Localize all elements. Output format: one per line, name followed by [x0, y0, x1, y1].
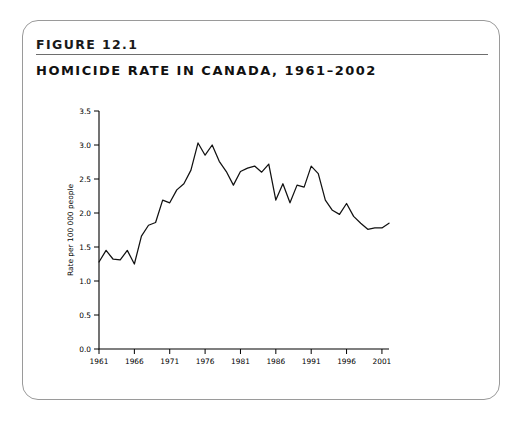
chart-plot-area: 0.00.51.01.52.02.53.03.5 196119661971197…: [63, 103, 393, 378]
homicide-rate-series: [99, 143, 389, 264]
x-axis-ticks: 196119661971197619811986199119962001: [90, 349, 392, 366]
figure-number: FIGURE 12.1: [36, 37, 488, 52]
x-tick-label: 1991: [302, 357, 321, 366]
x-tick-label: 1986: [266, 357, 285, 366]
x-tick-label: 2001: [373, 357, 392, 366]
y-tick-label: 0.0: [79, 345, 91, 354]
y-tick-label: 2.0: [79, 209, 91, 218]
y-axis-ticks: 0.00.51.01.52.02.53.03.5: [79, 107, 99, 354]
y-tick-label: 3.0: [79, 141, 91, 150]
header-divider: [36, 54, 488, 55]
page-title: HOMICIDE RATE IN CANADA, 1961–2002: [36, 62, 488, 79]
line-chart-svg: 0.00.51.01.52.02.53.03.5 196119661971197…: [63, 103, 393, 378]
chart-axes: [99, 111, 389, 349]
y-tick-label: 1.0: [79, 277, 91, 286]
figure-header: FIGURE 12.1 HOMICIDE RATE IN CANADA, 196…: [36, 37, 488, 79]
x-tick-label: 1996: [337, 357, 356, 366]
x-tick-label: 1966: [125, 357, 144, 366]
figure-card: FIGURE 12.1 HOMICIDE RATE IN CANADA, 196…: [22, 20, 500, 400]
y-axis-label: Rate per 100 000 people: [66, 184, 75, 276]
x-tick-label: 1971: [160, 357, 179, 366]
y-tick-label: 1.5: [79, 243, 91, 252]
x-tick-label: 1976: [196, 357, 215, 366]
y-tick-label: 3.5: [79, 107, 91, 116]
y-tick-label: 0.5: [79, 311, 91, 320]
x-tick-label: 1981: [231, 357, 250, 366]
x-tick-label: 1961: [90, 357, 109, 366]
y-tick-label: 2.5: [79, 175, 91, 184]
